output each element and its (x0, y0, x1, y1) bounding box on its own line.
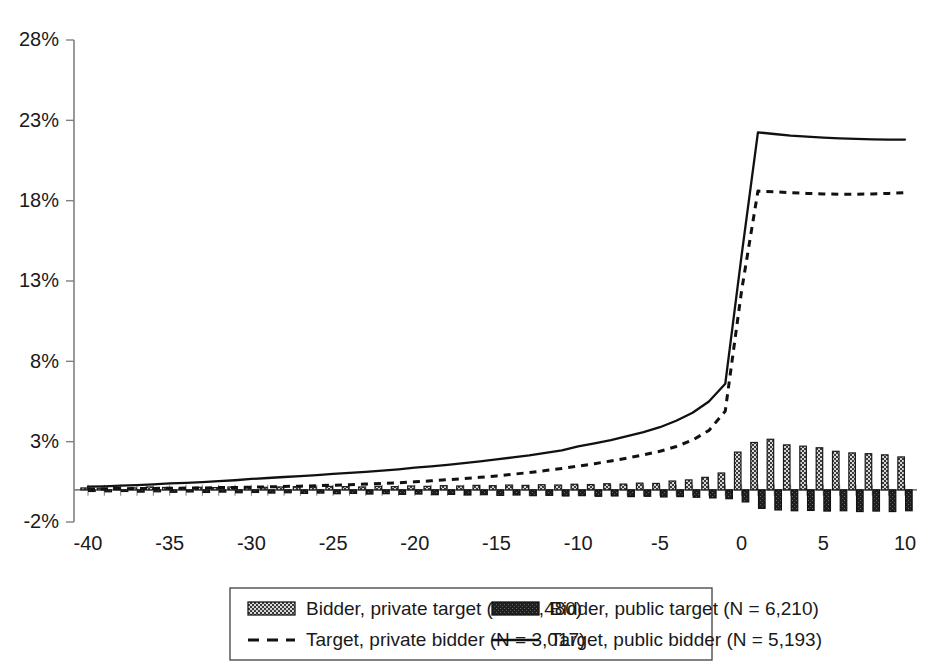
bar-bidder-private-target (440, 486, 447, 490)
bar-bidder-public-target (889, 490, 896, 512)
bar-bidder-public-target (513, 490, 520, 495)
bar-bidder-public-target (693, 490, 700, 497)
bar-bidder-public-target (236, 490, 243, 493)
bar-bidder-public-target (579, 490, 586, 496)
bar-bidder-public-target (759, 490, 766, 508)
bar-bidder-public-target (383, 490, 390, 494)
bar-bidder-public-target (415, 490, 422, 494)
bar-bidder-private-target (833, 451, 840, 490)
bar-bidder-public-target (824, 490, 831, 511)
bar-bidder-public-target (121, 490, 128, 492)
bar-bidder-private-target (734, 452, 741, 490)
legend-entry-label: Target, private bidder (N = 3,017) (306, 629, 585, 650)
bar-bidder-private-target (865, 454, 872, 490)
bar-bidder-private-target (375, 486, 382, 490)
y-tick-label: 13% (19, 269, 59, 291)
bar-bidder-public-target (285, 490, 292, 493)
legend-swatch-public-bar (492, 602, 539, 615)
legend-entry-label: Bidder, public target (N = 6,210) (550, 598, 819, 619)
bar-bidder-public-target (808, 490, 815, 511)
bar-bidder-public-target (546, 490, 553, 495)
y-tick-label: 18% (19, 189, 59, 211)
bar-bidder-public-target (317, 490, 324, 493)
bar-bidder-private-target (636, 483, 643, 490)
bar-bidder-private-target (882, 455, 889, 490)
bar-bidder-public-target (464, 490, 471, 495)
y-tick-label: 23% (19, 109, 59, 131)
bar-bidder-public-target (366, 490, 373, 494)
x-tick-label: 0 (736, 532, 747, 554)
bar-bidder-public-target (187, 490, 194, 492)
bar-bidder-private-target (408, 486, 415, 490)
bar-bidder-private-target (571, 484, 578, 490)
bar-bidder-public-target (791, 490, 798, 511)
bar-bidder-private-target (702, 477, 709, 490)
bar-bidder-private-target (718, 473, 725, 490)
bar-bidder-public-target (350, 490, 357, 494)
bar-bidder-public-target (203, 490, 210, 493)
bar-bidder-private-target (473, 485, 480, 489)
x-tick-label: -20 (400, 532, 429, 554)
bar-bidder-private-target (277, 487, 284, 490)
bar-bidder-private-target (604, 484, 611, 490)
bar-bidder-private-target (506, 485, 513, 490)
bar-bidder-public-target (448, 490, 455, 494)
bar-bidder-public-target (562, 490, 569, 496)
bar-bidder-private-target (898, 457, 905, 490)
bar-bidder-public-target (628, 490, 635, 497)
bar-bidder-public-target (170, 490, 177, 492)
bar-bidder-public-target (726, 490, 733, 499)
bar-bidder-public-target (481, 490, 488, 495)
x-tick-label: -35 (155, 532, 184, 554)
y-tick-label: 28% (19, 28, 59, 50)
bar-bidder-private-target (489, 486, 496, 490)
y-tick-label: 8% (30, 350, 59, 372)
bar-bidder-public-target (742, 490, 749, 502)
x-tick-label: -15 (482, 532, 511, 554)
x-tick-label: -5 (651, 532, 669, 554)
bar-bidder-private-target (212, 488, 219, 490)
bar-bidder-private-target (849, 453, 856, 490)
bar-bidder-public-target (906, 490, 913, 511)
bar-bidder-public-target (399, 490, 406, 494)
bar-bidder-private-target (767, 439, 774, 490)
bar-bidder-private-target (800, 446, 807, 490)
chart-figure: 28%23%18%13%8%3%-2% -40-35-30-25-20-15-1… (0, 0, 942, 667)
bar-bidder-public-target (497, 490, 504, 495)
bar-bidder-private-target (146, 487, 153, 490)
bar-bidder-private-target (555, 485, 562, 490)
bar-bidder-private-target (587, 485, 594, 490)
bar-bidder-private-target (359, 487, 366, 490)
bar-bidder-public-target (710, 490, 717, 498)
bar-bidder-public-target (644, 490, 651, 496)
bar-bidder-private-target (783, 445, 790, 490)
bar-bidder-private-target (522, 485, 529, 489)
bar-bidder-private-target (685, 480, 692, 490)
bar-bidder-public-target (252, 490, 259, 493)
bar-bidder-private-target (391, 487, 398, 490)
bar-bidder-public-target (154, 490, 161, 492)
bar-bidder-public-target (334, 490, 341, 494)
bar-bidder-private-target (653, 483, 660, 489)
bar-bidder-private-target (457, 486, 464, 490)
chart-background (0, 0, 942, 667)
y-tick-label: -2% (23, 510, 59, 532)
bar-bidder-public-target (775, 490, 782, 510)
x-tick-label: -30 (237, 532, 266, 554)
event-study-chart: 28%23%18%13%8%3%-2% -40-35-30-25-20-15-1… (0, 0, 942, 667)
bar-bidder-public-target (219, 490, 226, 492)
x-tick-label: -25 (319, 532, 348, 554)
x-tick-label: -40 (74, 532, 103, 554)
bar-bidder-public-target (677, 490, 684, 497)
x-tick-label: 10 (894, 532, 916, 554)
bar-bidder-public-target (661, 490, 668, 497)
bar-bidder-private-target (620, 484, 627, 490)
bar-bidder-public-target (840, 490, 847, 511)
bar-bidder-private-target (310, 487, 317, 490)
bar-bidder-public-target (857, 490, 864, 512)
bar-bidder-public-target (268, 490, 275, 493)
bar-bidder-private-target (751, 442, 758, 489)
legend-entry-label: Bidder, private target (N = 9,480) (306, 598, 582, 619)
legend-swatch-private-bar (248, 602, 295, 615)
bar-bidder-public-target (138, 490, 145, 492)
